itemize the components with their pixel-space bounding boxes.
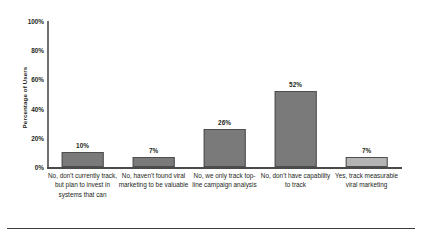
x-axis-tick-label: Yes, track measurable viral marketing bbox=[331, 171, 402, 190]
bar[interactable] bbox=[203, 129, 246, 167]
bottom-divider-rule bbox=[7, 228, 415, 229]
plot-area: 0%20%40%60%80%100% 10%7%26%52%7% bbox=[47, 21, 402, 167]
x-axis-line bbox=[47, 167, 402, 169]
bar-group: 52% bbox=[260, 21, 331, 167]
y-axis-tick-label: 40% bbox=[31, 105, 44, 112]
x-axis-tick-label: No, we only track top-line campaign anal… bbox=[189, 171, 260, 190]
bar-group: 26% bbox=[189, 21, 260, 167]
bar-value-label: 10% bbox=[76, 142, 89, 149]
y-axis-tick-label: 60% bbox=[31, 76, 44, 83]
y-axis-tick-label: 80% bbox=[31, 47, 44, 54]
bar-group: 10% bbox=[47, 21, 118, 167]
bar-value-label: 52% bbox=[289, 81, 302, 88]
x-axis-tick-label: No, haven't found viral marketing to be … bbox=[118, 171, 189, 190]
x-axis-tick-label: No, don't have capability to track bbox=[260, 171, 331, 190]
y-axis-tick-label: 0% bbox=[35, 164, 44, 171]
bar-value-label: 7% bbox=[362, 147, 371, 154]
bar[interactable] bbox=[274, 91, 317, 167]
y-axis-tick-label: 20% bbox=[31, 134, 44, 141]
bar[interactable] bbox=[132, 157, 175, 167]
bar-value-label: 7% bbox=[149, 147, 158, 154]
bar-value-label: 26% bbox=[218, 119, 231, 126]
x-axis-tick-label: No, don't currently track, but plan to i… bbox=[47, 171, 118, 199]
bar-chart-figure: Percentage of Users 0%20%40%60%80%100% 1… bbox=[0, 0, 422, 238]
bars-layer: 10%7%26%52%7% bbox=[47, 21, 402, 167]
bar[interactable] bbox=[61, 152, 104, 167]
x-axis-tick-labels: No, don't currently track, but plan to i… bbox=[47, 171, 402, 221]
y-axis-title: Percentage of Users bbox=[21, 28, 28, 168]
bar-group: 7% bbox=[118, 21, 189, 167]
bar[interactable] bbox=[345, 157, 388, 167]
bar-group: 7% bbox=[331, 21, 402, 167]
y-axis-tick-label: 100% bbox=[28, 18, 44, 25]
